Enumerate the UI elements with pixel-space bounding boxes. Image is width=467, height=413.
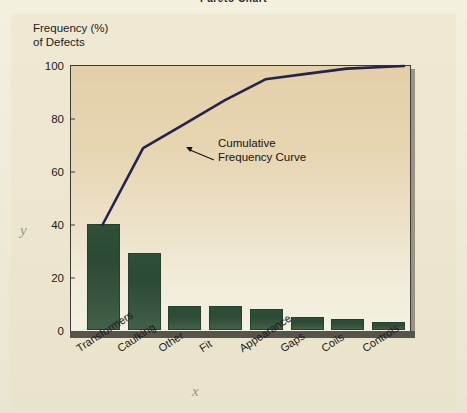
bar-gaps bbox=[291, 317, 324, 330]
x-axis-baseline bbox=[70, 331, 415, 338]
plot-area bbox=[70, 65, 411, 333]
y-axis-caption: Frequency (%) of Defects bbox=[33, 22, 108, 49]
bar-coils bbox=[331, 319, 364, 330]
y-tick-label-20: 20 bbox=[38, 272, 64, 284]
bar-other bbox=[168, 306, 201, 330]
x-axis-marker: x bbox=[192, 383, 199, 400]
cumulative-curve-annotation: Cumulative Frequency Curve bbox=[218, 136, 306, 164]
y-tick-label-0: 0 bbox=[38, 325, 64, 337]
y-axis-marker: y bbox=[20, 222, 27, 239]
y-tick-label-100: 100 bbox=[38, 60, 64, 72]
y-tick-label-40: 40 bbox=[38, 219, 64, 231]
y-tick-mark-40 bbox=[70, 225, 75, 226]
y-tick-mark-60 bbox=[70, 172, 75, 173]
y-tick-label-60: 60 bbox=[38, 166, 64, 178]
chart-title: Pareto Chart bbox=[0, 0, 467, 5]
y-tick-mark-20 bbox=[70, 278, 75, 279]
y-tick-label-80: 80 bbox=[38, 113, 64, 125]
y-tick-mark-80 bbox=[70, 119, 75, 120]
chart-page: Pareto Chart Frequency (%) of Defects y … bbox=[0, 0, 467, 413]
bar-transformers bbox=[87, 224, 120, 330]
bar-fit bbox=[209, 306, 242, 330]
